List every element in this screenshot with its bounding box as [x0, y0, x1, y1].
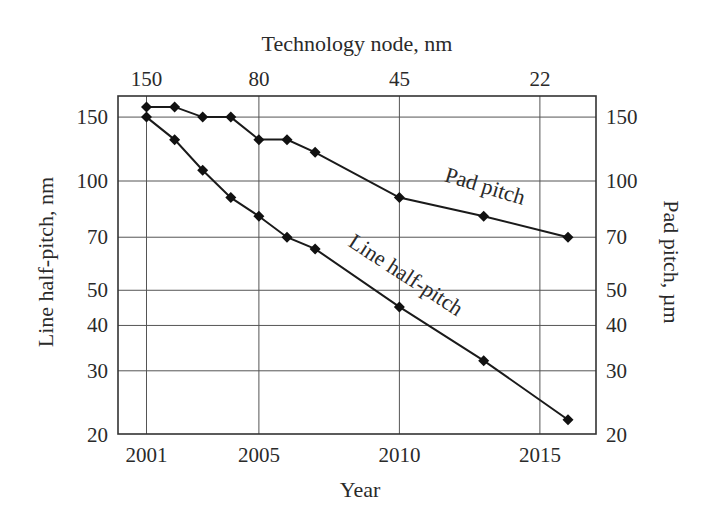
right-y-tick-labels: 2030405070100150	[606, 105, 638, 447]
bottom-x-tick-labels: 2001200520102015	[126, 443, 561, 467]
top-tick-label: 22	[529, 67, 550, 91]
plot-frame	[118, 96, 596, 434]
diamond-marker	[478, 211, 489, 222]
top-x-tick-labels: 150804522	[131, 67, 551, 91]
y2-tick-label: 20	[606, 423, 627, 447]
y2-tick-label: 70	[606, 225, 627, 249]
top-tick-label: 80	[248, 67, 269, 91]
series-line	[147, 107, 569, 237]
series-line	[147, 117, 569, 420]
left-y-tick-labels: 2030405070100150	[77, 105, 109, 447]
y-tick-label: 50	[87, 278, 108, 302]
diamond-marker	[394, 301, 405, 312]
y2-tick-label: 150	[606, 105, 638, 129]
series-layer	[141, 101, 574, 425]
y2-axis-title: Pad pitch, µm	[659, 200, 684, 323]
y-tick-label: 30	[87, 359, 108, 383]
series-labels: Pad pitchLine half-pitch	[344, 162, 528, 321]
diamond-marker	[197, 112, 208, 123]
series-inline-label: Pad pitch	[442, 162, 528, 210]
x-tick-label: 2005	[238, 443, 280, 467]
y-tick-label: 70	[87, 225, 108, 249]
top-tick-label: 45	[389, 67, 410, 91]
x-tick-label: 2010	[378, 443, 420, 467]
y-tick-label: 150	[77, 105, 109, 129]
diamond-marker	[282, 134, 293, 145]
y2-tick-label: 30	[606, 359, 627, 383]
gridlines	[118, 96, 596, 434]
top-tick-label: 150	[131, 67, 163, 91]
chart: 2030405070100150 2030405070100150 200120…	[0, 0, 710, 518]
series-line-half-pitch	[141, 112, 574, 426]
y-axis-title: Line half-pitch, nm	[33, 177, 58, 347]
diamond-marker	[563, 232, 574, 243]
series-inline-label: Line half-pitch	[344, 228, 468, 321]
diamond-marker	[141, 101, 152, 112]
diamond-marker	[169, 101, 180, 112]
y-tick-label: 40	[87, 313, 108, 337]
y2-tick-label: 50	[606, 278, 627, 302]
top-axis-title: Technology node, nm	[262, 31, 453, 56]
x-tick-label: 2015	[519, 443, 561, 467]
y-tick-label: 100	[77, 169, 109, 193]
y2-tick-label: 100	[606, 169, 638, 193]
y-tick-label: 20	[87, 423, 108, 447]
x-axis-title: Year	[340, 477, 381, 502]
diamond-marker	[310, 147, 321, 158]
y2-tick-label: 40	[606, 313, 627, 337]
diamond-marker	[394, 192, 405, 203]
x-tick-label: 2001	[126, 443, 168, 467]
